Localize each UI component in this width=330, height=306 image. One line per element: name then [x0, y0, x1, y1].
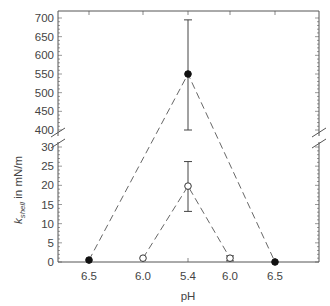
y-tick-label: 5 [48, 237, 54, 249]
y-tick-label: 600 [35, 49, 54, 61]
y-axis-title-units: in mN/m [12, 156, 24, 202]
open-circle-marker [140, 255, 147, 262]
y-axis-title-sub: shell [18, 202, 27, 219]
x-tick-label: 6.0 [135, 270, 151, 282]
y-axis-title: kshell in mN/m [12, 156, 27, 224]
x-tick-label: 6.0 [222, 270, 238, 282]
y-tick-label: 15 [41, 199, 54, 211]
y-tick-label: 650 [35, 31, 54, 43]
x-tick-label: 6.5 [81, 270, 97, 282]
series-dashed-line [143, 186, 230, 258]
filled-circle-marker [86, 257, 93, 264]
filled-circle-marker [272, 259, 279, 266]
chart: 051015202530400450500550600650700 6.56.0… [0, 0, 330, 306]
y-tick-label: 500 [35, 87, 54, 99]
series-dashed-line [89, 74, 275, 262]
x-tick-label: 5.4 [180, 270, 197, 282]
y-tick-label: 10 [41, 218, 54, 230]
y-tick-label: 700 [35, 12, 54, 24]
x-tick-label: 6.5 [267, 270, 283, 282]
x-axis-ticks: 6.56.05.46.06.5 [81, 11, 283, 282]
filled-circle-marker [185, 71, 192, 78]
y-tick-label: 400 [35, 124, 54, 136]
y-tick-label: 25 [41, 160, 54, 172]
y-tick-label: 20 [41, 179, 54, 191]
y-tick-label: 550 [35, 68, 54, 80]
open-circle-marker [185, 183, 192, 190]
y-tick-label: 0 [48, 256, 54, 268]
axis-break-marks [51, 128, 326, 148]
data-series [86, 20, 279, 265]
x-axis-title: pH [181, 290, 196, 302]
open-circle-marker [227, 255, 234, 262]
y-axis-ticks: 051015202530400450500550600650700 [35, 12, 319, 268]
y-tick-label: 450 [35, 105, 54, 117]
